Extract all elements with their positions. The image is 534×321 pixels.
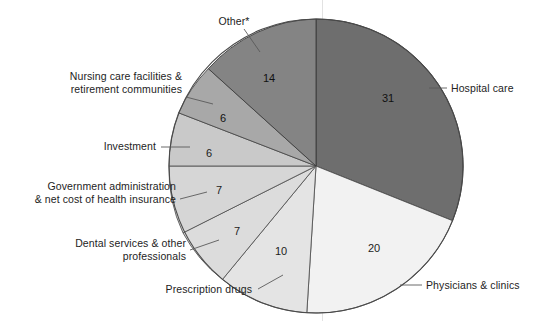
pie-slices [169, 19, 463, 313]
callout-label-nursing-care-line2: retirement communities [4, 83, 182, 96]
callout-label-government-administration-line1: Government administration [4, 180, 176, 193]
callout-label-hospital-care: Hospital care [451, 82, 534, 95]
pie-chart: 31 20 10 7 7 6 6 14 Other* Nursing care … [0, 0, 534, 321]
callout-label-nursing-care-line1: Nursing care facilities & [4, 70, 182, 83]
value-investment: 6 [206, 147, 212, 159]
value-physicians-clinics: 20 [368, 242, 380, 254]
value-government-administration: 7 [216, 184, 222, 196]
value-hospital-care: 31 [382, 92, 394, 104]
value-dental-services: 7 [234, 225, 240, 237]
callout-label-other: Other* [201, 15, 267, 28]
value-nursing-care: 6 [220, 112, 226, 124]
pie-chart-canvas: 31 20 10 7 7 6 6 14 [0, 0, 534, 321]
callout-label-prescription-drugs: Prescription drugs [60, 283, 252, 296]
callout-label-government-administration-line2: & net cost of health insurance [4, 193, 176, 206]
callout-label-dental-services-line2: professionals [4, 250, 186, 263]
callout-label-physicians-clinics: Physicians & clinics [426, 279, 534, 292]
value-prescription-drugs: 10 [275, 245, 287, 257]
callout-label-investment: Investment [4, 140, 156, 153]
callout-label-dental-services-line1: Dental services & other [4, 237, 186, 250]
value-other: 14 [263, 72, 275, 84]
